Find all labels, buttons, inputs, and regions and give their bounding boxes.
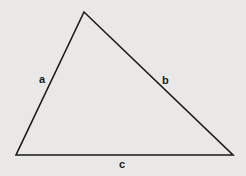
side-a-label: a bbox=[39, 73, 46, 85]
triangle-diagram: a b c bbox=[0, 0, 246, 176]
side-c-label: c bbox=[119, 158, 125, 170]
triangle bbox=[16, 12, 233, 155]
side-b-label: b bbox=[162, 74, 169, 86]
